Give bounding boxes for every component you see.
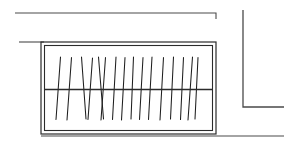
hatch-line-2 [67,58,72,121]
hatch-lines-group [56,57,198,120]
hatch-line-11 [149,57,153,120]
hatch-line-16 [195,58,198,120]
hatch-line-7 [113,57,117,120]
hatch-line-10 [140,58,144,120]
reference-lines-group [15,10,284,136]
hatch-line-5 [99,57,104,119]
top-extension-line [15,13,216,19]
technical-drawing-svg [0,0,284,145]
hatch-line-8 [122,58,126,121]
hatch-line-4 [88,58,93,120]
right-vertical-extension-line [243,10,284,107]
hatch-line-14 [181,58,184,120]
hatch-line-1 [56,57,61,120]
hatch-line-3 [82,57,87,119]
hatch-line-12 [160,58,164,121]
hatch-line-13 [171,57,174,119]
hatch-line-9 [131,57,134,119]
hatch-line-15 [188,57,193,120]
drawing-canvas [0,0,284,145]
